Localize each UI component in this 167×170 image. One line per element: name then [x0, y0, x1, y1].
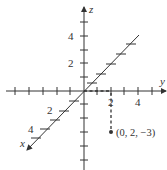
y-tick-label-4: 4: [135, 96, 141, 108]
x-tick-label-4: 4: [28, 123, 34, 135]
z-axis: 4 2 z: [68, 3, 94, 170]
point-construction: (0, 2, −3): [84, 91, 156, 139]
y-axis-label: y: [159, 75, 165, 87]
point-label: (0, 2, −3): [116, 127, 156, 139]
x-tick-label-2: 2: [47, 104, 53, 116]
z-tick-label-2: 2: [68, 57, 74, 69]
x-axis-label: x: [19, 137, 25, 149]
z-tick-label-4: 4: [68, 30, 74, 42]
point-marker: [109, 130, 113, 134]
z-axis-label: z: [88, 3, 94, 15]
coordinate-diagram: 2 4 y 4 2 z: [0, 0, 167, 170]
